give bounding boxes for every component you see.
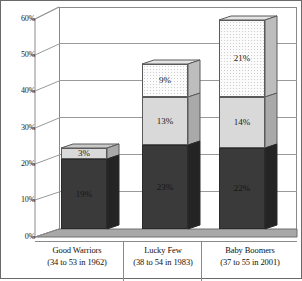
category-label-lucky-few: Lucky Few (38 to 54 in 1983) bbox=[125, 244, 201, 268]
ytick-label-0: 0% bbox=[5, 233, 35, 241]
segment-middle-lucky-few: 13% bbox=[142, 97, 188, 145]
category-name-good-warriors: Good Warriors bbox=[52, 245, 101, 255]
ytick-label-30: 30% bbox=[5, 124, 35, 132]
segment-middle-baby-boomers: 14% bbox=[219, 97, 265, 148]
ytick-label-60: 60% bbox=[5, 15, 35, 23]
category-detail-lucky-few: (38 to 54 in 1983) bbox=[125, 256, 201, 268]
ytick-label-50: 50% bbox=[5, 51, 35, 59]
category-detail-good-warriors: (34 to 53 in 1962) bbox=[31, 256, 123, 268]
category-name-baby-boomers: Baby Boomers bbox=[225, 245, 275, 255]
category-divider-1 bbox=[123, 241, 124, 281]
ytick-label-10: 10% bbox=[5, 196, 35, 204]
category-label-good-warriors: Good Warriors (34 to 53 in 1962) bbox=[31, 244, 123, 268]
category-detail-baby-boomers: (37 to 55 in 2001) bbox=[203, 256, 297, 268]
category-axis-baseline bbox=[35, 241, 297, 242]
segment-bottom-lucky-few: 23% bbox=[142, 145, 188, 229]
category-label-baby-boomers: Baby Boomers (37 to 55 in 2001) bbox=[203, 244, 297, 268]
category-name-lucky-few: Lucky Few bbox=[144, 245, 182, 255]
segment-middle-good-warriors: 3% bbox=[61, 148, 107, 159]
ytick-label-20: 20% bbox=[5, 160, 35, 168]
segment-top-lucky-few: 9% bbox=[142, 64, 188, 97]
ytick-label-40: 40% bbox=[5, 87, 35, 95]
segment-bottom-baby-boomers: 22% bbox=[219, 148, 265, 229]
segment-bottom-good-warriors: 19% bbox=[61, 159, 107, 229]
segment-top-baby-boomers: 21% bbox=[219, 20, 265, 97]
category-divider-2 bbox=[201, 241, 202, 281]
